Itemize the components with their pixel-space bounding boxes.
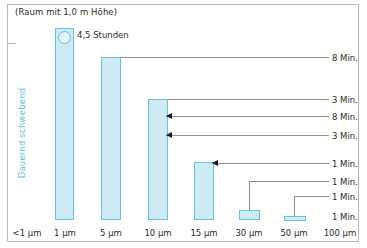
bar-10um	[148, 99, 168, 220]
right-label-1min-15um: 1 Min.	[332, 159, 358, 169]
right-label-3min-10um: 3 Min.	[332, 95, 358, 105]
xtick-label-1um: 1 µm	[54, 228, 76, 238]
leader-line-30um-horizontal	[249, 181, 329, 182]
bar-15um	[194, 162, 214, 220]
right-label-8min-5um: 8 Min.	[332, 53, 358, 63]
right-label-1min-30um: 1 Min.	[332, 177, 358, 187]
leader-line-callout-8min	[166, 116, 329, 117]
xtick-label-lt1um: <1 µm	[13, 228, 42, 238]
right-label-8min-callout: 8 Min.	[332, 112, 358, 122]
xtick-label-10um: 10 µm	[144, 228, 171, 238]
leader-line-50um-vertical	[294, 196, 295, 217]
right-label-1min-100um: 1 Min.	[332, 212, 358, 222]
bar-30um	[239, 210, 260, 220]
leader-line-5um	[121, 57, 329, 58]
chart-figure: (Raum mit 1,0 m Höhe) Dauernd schwebend …	[0, 0, 367, 248]
bar-1um-value-label: 4,5 Stunden	[77, 30, 129, 40]
bar-50um	[284, 216, 306, 221]
header-note: (Raum mit 1,0 m Höhe)	[15, 7, 117, 17]
leader-line-callout-3min	[166, 135, 329, 136]
arrow-head-callout-8min	[166, 113, 172, 119]
leader-line-10um	[168, 99, 329, 100]
xtick-label-30um: 30 µm	[235, 228, 262, 238]
bar-5um	[101, 57, 121, 220]
y-axis-label: Dauernd schwebend	[17, 78, 27, 188]
right-label-1min-50um: 1 Min.	[332, 192, 358, 202]
xtick-label-15um: 15 µm	[190, 228, 217, 238]
frame-left-tick	[8, 43, 16, 44]
leader-line-50um-horizontal	[294, 196, 329, 197]
arrow-head-15um	[212, 160, 218, 166]
xtick-label-5um: 5 µm	[100, 228, 122, 238]
bar-1um-circle-marker	[58, 31, 71, 44]
leader-line-15um	[212, 163, 329, 164]
arrow-head-callout-3min	[166, 132, 172, 138]
leader-line-30um-vertical	[249, 181, 250, 211]
xtick-label-50um: 50 µm	[280, 228, 307, 238]
xtick-label-100um: 100 µm	[324, 228, 357, 238]
right-label-3min-callout: 3 Min.	[332, 131, 358, 141]
bar-1um	[55, 28, 74, 220]
